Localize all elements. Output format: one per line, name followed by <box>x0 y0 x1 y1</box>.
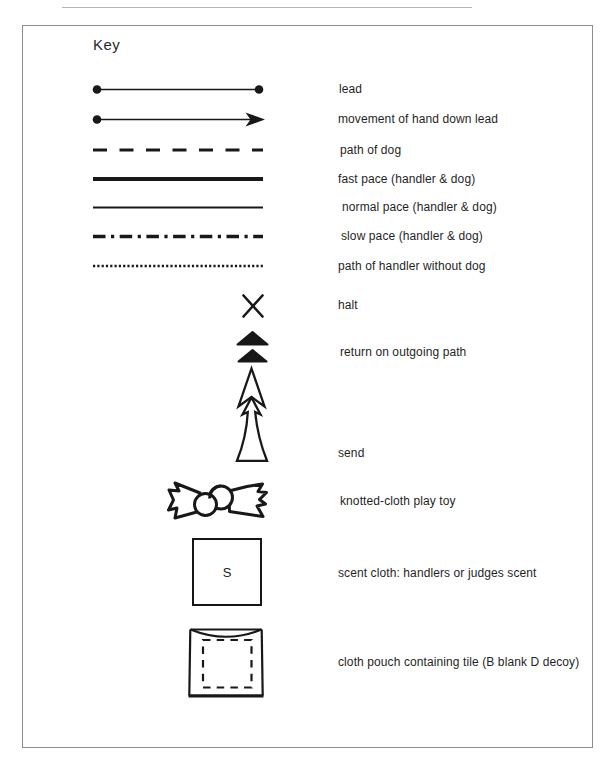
key-label-return-on-outgoing-path: return on outgoing path <box>340 345 466 359</box>
scent-letter: S <box>223 565 232 580</box>
key-label-halt: halt <box>338 298 358 312</box>
lead-symbol <box>93 85 264 94</box>
key-label-lead: lead <box>339 82 362 96</box>
key-label-send: send <box>338 446 364 460</box>
key-label-slow-pace: slow pace (handler & dog) <box>341 229 483 243</box>
key-label-cloth-pouch: cloth pouch containing tile (B blank D d… <box>338 655 579 669</box>
scent-cloth-square-symbol: S <box>192 538 262 606</box>
halt-x-symbol <box>244 296 263 317</box>
key-label-normal-pace: normal pace (handler & dog) <box>342 200 497 214</box>
key-label-path-of-dog: path of dog <box>340 143 401 157</box>
cloth-pouch-symbol <box>189 630 264 696</box>
knotted-cloth-play-toy-symbol <box>169 483 267 518</box>
key-label-path-of-handler-without-dog: path of handler without dog <box>338 259 485 273</box>
return-on-outgoing-path-symbol <box>238 332 268 362</box>
key-label-knotted-cloth-play-toy: knotted-cloth play toy <box>340 494 456 508</box>
key-label-fast-pace: fast pace (handler & dog) <box>338 172 475 186</box>
scanned-key-page: Key <box>0 0 616 778</box>
movement-of-hand-down-lead-symbol <box>93 113 265 127</box>
key-label-movement-of-hand-down-lead: movement of hand down lead <box>338 112 498 126</box>
key-label-scent-cloth: scent cloth: handlers or judges scent <box>338 566 536 580</box>
send-arrow-symbol <box>237 369 267 461</box>
